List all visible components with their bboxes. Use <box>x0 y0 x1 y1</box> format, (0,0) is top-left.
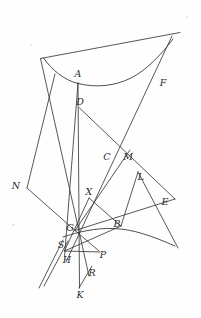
point-label-E: E <box>162 197 169 207</box>
paper-speck <box>30 44 32 46</box>
figure-canvas <box>0 0 201 318</box>
line-B-to-L <box>121 172 138 226</box>
line-L-to-E-down <box>138 172 178 248</box>
line-through-F-asymptote <box>41 33 181 59</box>
hyperbola-right-branch <box>63 228 175 246</box>
point-label-R: R <box>88 268 95 278</box>
point-label-K: K <box>76 290 83 300</box>
line-H-to-P-lower <box>65 251 101 252</box>
hyperbola-curves <box>44 39 176 246</box>
point-label-H: H <box>63 255 71 265</box>
point-label-C: C <box>103 152 110 162</box>
point-label-A: A <box>75 69 82 79</box>
point-label-F: F <box>160 78 167 88</box>
point-label-M: M <box>123 152 133 162</box>
point-label-D: D <box>76 97 84 107</box>
line-N-up-to-A-side <box>27 74 55 188</box>
point-label-P: P <box>100 250 106 260</box>
paper-speck <box>186 16 188 18</box>
point-label-S: S <box>58 240 65 250</box>
point-label-B: B <box>114 219 121 229</box>
line-G-to-E <box>75 199 175 231</box>
point-label-X: X <box>86 187 93 197</box>
point-label-L: L <box>138 172 144 182</box>
point-label-N: N <box>12 181 20 191</box>
point-label-G: G <box>66 223 74 233</box>
line-A-to-K-vertical <box>78 83 80 288</box>
geometry-figure: A D F C M N L X E G B S H P R K <box>0 0 201 318</box>
paper-speck <box>12 224 15 226</box>
